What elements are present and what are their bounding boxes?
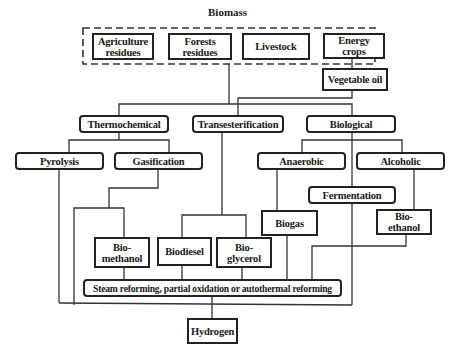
label: Bio- [388, 211, 420, 222]
label: Forests [183, 36, 218, 47]
node-anaerobic: Anaerobic [257, 152, 346, 170]
label: Vegetable oil [328, 74, 382, 85]
label: Transesterification [198, 119, 279, 130]
label: crops [338, 46, 369, 57]
label: Energy [338, 35, 369, 46]
node-hydrogen: Hydrogen [187, 318, 238, 344]
label: Livestock [255, 41, 296, 52]
node-biodiesel: Biodiesel [157, 237, 212, 266]
label: Biogas [275, 218, 304, 229]
node-vegetable-oil: Vegetable oil [322, 68, 388, 91]
label: methanol [102, 253, 142, 264]
label: Agriculture [98, 36, 148, 47]
label: Alcoholic [380, 156, 420, 167]
label: Biological [330, 119, 372, 130]
label: Bio- [227, 242, 261, 253]
label: Hydrogen [191, 326, 234, 337]
node-bioglycerol: Bio-glycerol [216, 237, 272, 268]
label: Gasification [133, 156, 185, 167]
node-transesterification: Transesterification [192, 115, 284, 133]
node-gasification: Gasification [114, 152, 203, 170]
label: Anaerobic [279, 156, 324, 167]
label: Bio- [102, 242, 142, 253]
node-thermochemical: Thermochemical [79, 115, 169, 133]
node-alcoholic: Alcoholic [356, 152, 445, 170]
label: Fermentation [323, 190, 382, 201]
node-forests-residues: Forestsresidues [168, 33, 232, 60]
label: residues [183, 47, 218, 58]
label: Pyrolysis [40, 156, 79, 167]
biomass-hydrogen-flowchart: Biomass Agricultureresidues Forestsresid… [0, 0, 460, 359]
node-agriculture-residues: Agricultureresidues [92, 33, 154, 60]
node-fermentation: Fermentation [308, 186, 396, 204]
biomass-title: Biomass [208, 6, 247, 18]
label: residues [98, 47, 148, 58]
node-biogas: Biogas [261, 210, 318, 236]
node-pyrolysis: Pyrolysis [15, 152, 104, 170]
node-biological: Biological [306, 115, 396, 133]
label: Thermochemical [87, 119, 160, 130]
node-livestock: Livestock [242, 33, 310, 60]
label: Biodiesel [165, 246, 203, 257]
node-biomethanol: Bio-methanol [94, 237, 150, 268]
label: ethanol [388, 222, 420, 233]
label: glycerol [227, 253, 261, 264]
node-reforming: Steam reforming, partial oxidation or au… [83, 279, 342, 297]
node-energy-crops: Energycrops [323, 33, 385, 59]
label: Steam reforming, partial oxidation or au… [93, 283, 332, 294]
node-bioethanol: Bio-ethanol [376, 209, 432, 235]
